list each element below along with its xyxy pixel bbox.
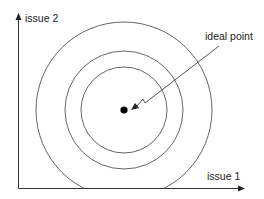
annotation-arrowhead-icon [131, 103, 139, 110]
y-axis-label: issue 2 [25, 12, 58, 24]
ideal-point-dot [120, 106, 127, 113]
x-axis-arrowhead-icon [238, 186, 245, 192]
axes [19, 19, 240, 189]
annotation-arrow [137, 46, 219, 106]
x-axis-label: issue 1 [207, 170, 240, 182]
ideal-point-diagram: issue 2 issue 1 ideal point [0, 0, 264, 199]
y-axis-arrowhead-icon [16, 13, 22, 20]
ideal-point-label: ideal point [205, 30, 253, 42]
